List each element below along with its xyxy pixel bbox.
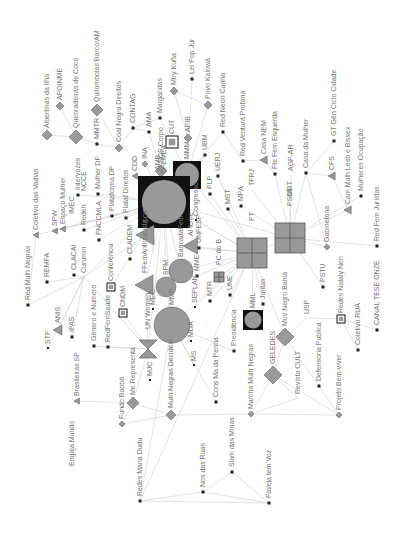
node-presid-ncia [233, 350, 236, 353]
node-label: UNE [226, 275, 233, 290]
node-label: FNCCMLA [95, 201, 102, 235]
edge [203, 472, 232, 492]
node-label: Cam Mulh Lesb e Bissex [344, 127, 351, 204]
node-mml [243, 310, 263, 330]
network-diagram: Albertinas da IlhaAPOINMEQuebradeiras de… [0, 0, 394, 547]
node-label: PC do B [215, 239, 222, 265]
node-label: Margaridas [156, 78, 163, 113]
node-mmtr [96, 143, 99, 146]
node-label: MRT [286, 181, 293, 196]
node-coletivo-rua [357, 349, 360, 352]
node-label: Coletivo RUA [354, 303, 361, 345]
node-label: IPAS [68, 317, 75, 332]
node-albertinas-da-ilha [42, 130, 52, 140]
node-label: MDA [187, 321, 194, 337]
edge [122, 415, 171, 424]
node-pstu [322, 286, 325, 289]
node-ipas [71, 336, 74, 339]
node-label: MST [224, 189, 231, 204]
edge [251, 398, 298, 414]
node-label: SEPLAN [191, 275, 198, 303]
node-label: Quilombolas Barco/AM [93, 30, 100, 102]
node-label: Juntas [259, 278, 266, 299]
node-redes-maria-dudu [139, 500, 142, 503]
node-remfa [46, 281, 49, 284]
node-mov-negro-bahia [276, 328, 294, 346]
node-label: Cons Ma da Penha [212, 337, 219, 397]
node-fundo-baob- [119, 421, 125, 427]
edge [307, 318, 341, 319]
node-label: Curumin [80, 247, 87, 273]
node-label: UNFESP [195, 215, 202, 243]
node-casa-nem [260, 156, 267, 164]
node-pt [237, 238, 267, 268]
node-mda [190, 340, 192, 342]
node-espa-o-mulher [60, 226, 65, 232]
node-confer-ncia [107, 283, 115, 291]
node-intervozes [77, 194, 80, 197]
node-label: Coal Negra Direitos [115, 81, 122, 142]
node-mtr [209, 300, 212, 303]
node-red-ventura-profana [242, 160, 245, 163]
node-label: MMTR [93, 118, 100, 139]
node-clacai [73, 274, 76, 277]
node-mpa [240, 205, 243, 208]
edge [140, 501, 269, 503]
node-quilombolas-barco-am [91, 104, 103, 116]
node-label: CNDM [119, 286, 126, 307]
node-label: Povo Kaiowá [204, 58, 211, 99]
node-cam-mulh-lesb-e-bissex [344, 206, 351, 214]
node-label: FFemAntirracista [141, 220, 148, 273]
node-label: Presidência [230, 309, 237, 346]
node-label: Quebradeiras de Coco [72, 58, 79, 128]
node-mec [152, 308, 154, 310]
node-une [229, 294, 232, 297]
node-slam-das-minas [231, 471, 234, 474]
node-unfesp [198, 247, 201, 250]
node-label: UERJ [214, 153, 221, 171]
node-gabinetona [324, 244, 330, 250]
node-label: Mov Negro Bahia [281, 272, 288, 326]
node-label: CLACAI [70, 245, 77, 270]
node-cndm [119, 309, 127, 317]
node-quebradeiras-de-coco [69, 130, 83, 144]
node-label: Slam das Minas [228, 417, 235, 467]
node-stf [47, 347, 49, 349]
node-label: APOINME [56, 68, 63, 100]
node-label: CLADEM [126, 225, 133, 254]
node-label: Gabinetona [323, 206, 330, 242]
node-label: Plataforma DF [108, 166, 115, 211]
node-label: MMM [183, 142, 190, 160]
node-label: MML [249, 292, 256, 308]
node-label: PLP [206, 176, 213, 189]
node-mulher-df [97, 193, 100, 196]
node-label: Espaço Mulher [59, 177, 66, 224]
edge [28, 277, 84, 305]
node-uerj [217, 175, 220, 178]
node-cladem [129, 258, 132, 261]
node-redfemsa-de [107, 346, 110, 349]
node-coal-negra-direitos [115, 144, 123, 152]
node-mmp [154, 307, 190, 343]
node-label: CFS [328, 156, 335, 170]
node-label: Gênero e Número [90, 285, 97, 341]
node-un-women [139, 340, 157, 358]
edge [273, 375, 339, 415]
node-mulh-negras-decidem [166, 410, 176, 420]
node-label: MEC [149, 289, 156, 305]
node-spw [52, 228, 57, 234]
edge [232, 472, 269, 503]
node-label: MS [190, 351, 197, 362]
node-lei-pop-jur [191, 78, 194, 81]
node-plp [209, 193, 212, 196]
node-label: GELEDES [269, 331, 276, 364]
edge [171, 414, 251, 415]
edge [140, 492, 203, 501]
node-brasileiras-sp [74, 398, 79, 404]
node-label: RedFemSaúde [104, 295, 111, 342]
node-label: Mulh Negras Decidem [167, 339, 174, 408]
node-label: Red Neon Cunha [219, 73, 226, 127]
node-redeh [83, 229, 86, 232]
node-label: Favela tem Voz [265, 450, 272, 498]
node-label: Redes Maria Dudu [136, 438, 143, 496]
